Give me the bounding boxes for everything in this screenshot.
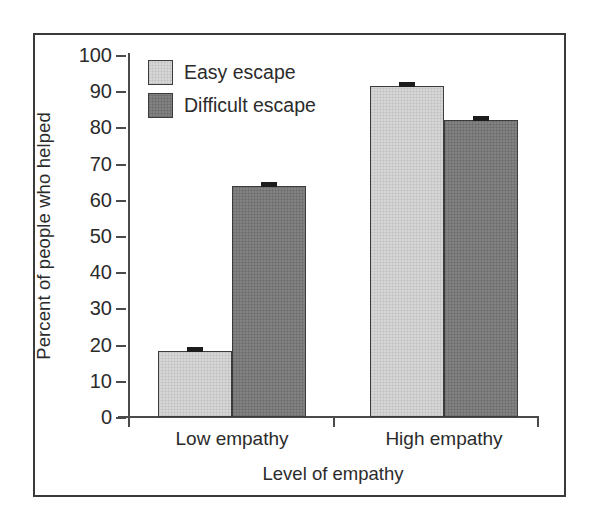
y-axis-tick-label: 80 (90, 116, 112, 139)
error-bar (187, 347, 203, 352)
x-axis-tick (537, 416, 539, 427)
x-axis-group-label: High empathy (385, 428, 502, 450)
bar-high-empathy-difficult-escape (444, 120, 518, 417)
legend-item: Easy escape (148, 56, 316, 89)
y-axis-tick-label: 70 (90, 152, 112, 175)
y-axis-tick (116, 345, 126, 347)
y-axis-tick (116, 127, 126, 129)
y-axis-tick-label: 30 (90, 297, 112, 320)
x-axis-title: Level of empathy (128, 463, 538, 485)
error-bar (261, 182, 277, 187)
y-axis-tick-label: 40 (90, 261, 112, 284)
y-axis-tick-label: 100 (79, 44, 112, 67)
y-axis-tick (116, 381, 126, 383)
y-axis-tick (116, 55, 126, 57)
y-axis-title: Percent of people who helped (33, 55, 59, 417)
y-axis-tick (116, 236, 126, 238)
y-axis-tick (116, 91, 126, 93)
y-axis-tick (116, 272, 126, 274)
legend-swatch-icon (148, 93, 173, 118)
error-bar (399, 82, 415, 87)
chart-legend: Easy escapeDifficult escape (148, 56, 316, 122)
y-axis-tick-label: 60 (90, 188, 112, 211)
bar-low-empathy-difficult-escape (232, 186, 306, 417)
legend-label: Easy escape (184, 61, 296, 84)
y-axis-tick (116, 200, 126, 202)
y-axis-tick-label: 50 (90, 225, 112, 248)
x-axis-tick (128, 416, 130, 427)
y-axis-tick-label: 10 (90, 369, 112, 392)
legend-item: Difficult escape (148, 89, 316, 122)
bar-low-empathy-easy-escape (158, 351, 232, 417)
y-axis-tick (116, 417, 126, 419)
x-axis-tick (333, 416, 335, 427)
legend-label: Difficult escape (184, 94, 316, 117)
error-bar (473, 116, 489, 121)
y-axis-tick-label: 20 (90, 333, 112, 356)
y-axis-tick (116, 164, 126, 166)
figure-page: Percent of people who helped Level of em… (0, 0, 595, 519)
x-axis-group-label: Low empathy (175, 428, 288, 450)
bar-high-empathy-easy-escape (370, 86, 444, 417)
y-axis-tick (116, 308, 126, 310)
y-axis-tick-label: 90 (90, 80, 112, 103)
y-axis-tick-label: 0 (101, 406, 112, 429)
legend-swatch-icon (148, 60, 173, 85)
